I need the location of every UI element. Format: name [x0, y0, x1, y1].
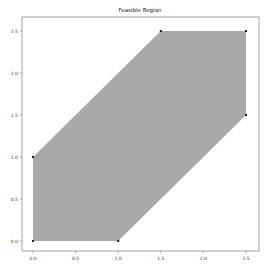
vertex-marker — [117, 240, 119, 242]
vertex-marker — [245, 30, 247, 32]
vertex-marker — [32, 156, 34, 158]
feasible-region-polygon — [33, 31, 246, 241]
x-tick-label: 0.0 — [29, 256, 36, 261]
y-tick-label: 1.5 — [11, 113, 18, 118]
y-axis: 0.00.51.01.52.02.5 — [11, 29, 22, 244]
y-tick-label: 2.0 — [11, 71, 18, 76]
x-axis: 0.00.51.01.52.02.5 — [29, 251, 249, 261]
y-tick-label: 0.0 — [11, 239, 18, 244]
x-tick-label: 2.5 — [242, 256, 249, 261]
vertex-marker — [245, 114, 247, 116]
x-tick-label: 2.0 — [200, 256, 207, 261]
plot-area — [32, 30, 247, 242]
vertex-marker — [160, 30, 162, 32]
y-tick-label: 1.0 — [11, 155, 18, 160]
x-tick-label: 1.5 — [157, 256, 164, 261]
x-tick-label: 1.0 — [115, 256, 122, 261]
chart-title: Feasible Region — [119, 7, 163, 14]
feasible-region-chart: Feasible Region 0.00.51.01.52.02.5 0.00.… — [0, 0, 267, 270]
vertex-marker — [32, 240, 34, 242]
x-tick-label: 0.5 — [72, 256, 79, 261]
y-tick-label: 2.5 — [11, 29, 18, 34]
y-tick-label: 0.5 — [11, 197, 18, 202]
